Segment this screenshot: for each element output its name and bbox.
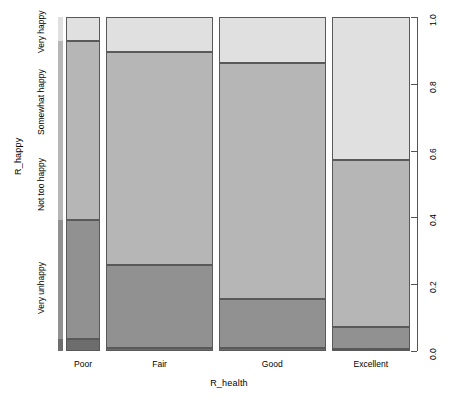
mosaic-tile-poor-very-happy[interactable] (66, 17, 100, 41)
y-axis-label-very-unhappy: Very unhappy (36, 262, 46, 314)
right-axis-label-0.0: 0.0 (428, 348, 438, 360)
right-axis-tick-0.4 (411, 217, 417, 218)
right-axis-tick-0.6 (411, 151, 417, 152)
y-axis-title: R_happy (13, 138, 23, 175)
spine-segment-not-too-happy (58, 220, 63, 339)
right-axis-tick-0.8 (411, 84, 417, 85)
x-axis-title: R_health (0, 378, 458, 388)
right-axis-label-0.4: 0.4 (428, 215, 438, 227)
x-axis-label-good: Good (219, 359, 326, 369)
right-axis-label-0.8: 0.8 (428, 81, 438, 93)
mosaic-tile-excellent-very-unhappy[interactable] (332, 349, 410, 351)
x-axis-label-fair: Fair (106, 359, 213, 369)
mosaic-tile-good-very-unhappy[interactable] (219, 348, 326, 351)
mosaic-tile-excellent-somewhat-happy[interactable] (332, 160, 410, 327)
mosaic-plot: R_happy Very unhappyNot too happySomewha… (0, 0, 458, 404)
mosaic-tile-fair-very-unhappy[interactable] (106, 348, 213, 351)
right-axis-label-0.2: 0.2 (428, 281, 438, 293)
mosaic-column-fair[interactable] (106, 17, 213, 351)
spine-segment-very-happy (58, 17, 63, 41)
y-axis-label-not-too-happy: Not too happy (36, 158, 46, 211)
right-axis-tick-0.0 (411, 351, 417, 352)
mosaic-tile-excellent-very-happy[interactable] (332, 17, 410, 160)
y-axis-label-very-happy: Very happy (36, 10, 46, 53)
mosaic-tile-good-very-happy[interactable] (219, 17, 326, 63)
mosaic-column-excellent[interactable] (332, 17, 410, 351)
right-axis-label-1.0: 1.0 (428, 14, 438, 26)
right-axis-tick-0.2 (411, 284, 417, 285)
mosaic-tile-poor-not-too-happy[interactable] (66, 220, 100, 339)
mosaic-tile-excellent-not-too-happy[interactable] (332, 327, 410, 349)
marginal-spine-bar (58, 17, 63, 351)
mosaic-tile-fair-not-too-happy[interactable] (106, 265, 213, 347)
mosaic-tile-poor-somewhat-happy[interactable] (66, 41, 100, 220)
mosaic-tile-fair-somewhat-happy[interactable] (106, 52, 213, 265)
mosaic-tile-good-somewhat-happy[interactable] (219, 63, 326, 299)
mosaic-tile-poor-very-unhappy[interactable] (66, 339, 100, 351)
x-axis-label-poor: Poor (66, 359, 100, 369)
mosaic-column-poor[interactable] (66, 17, 100, 351)
x-axis-label-excellent: Excellent (332, 359, 410, 369)
right-axis-tick-1.0 (411, 17, 417, 18)
spine-segment-somewhat-happy (58, 41, 63, 220)
mosaic-tile-good-not-too-happy[interactable] (219, 299, 326, 348)
mosaic-tile-fair-very-happy[interactable] (106, 17, 213, 52)
spine-segment-very-unhappy (58, 339, 63, 351)
mosaic-column-good[interactable] (219, 17, 326, 351)
right-axis-label-0.6: 0.6 (428, 148, 438, 160)
y-axis-label-somewhat-happy: Somewhat happy (36, 69, 46, 135)
right-axis-line (417, 17, 418, 351)
